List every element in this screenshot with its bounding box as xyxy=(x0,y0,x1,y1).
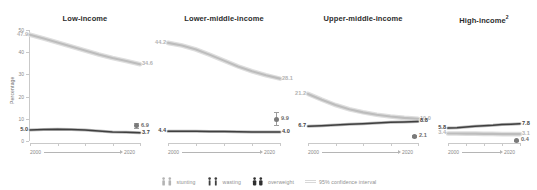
x-axis-tick xyxy=(85,143,86,146)
x-axis-range-rule xyxy=(462,152,500,153)
x-axis-tick xyxy=(448,143,449,146)
two-thin-people-icon xyxy=(207,177,220,186)
overweight-marker xyxy=(514,138,519,143)
value-label-end-wasting: 4.0 xyxy=(282,128,290,134)
value-label-start-wasting: 6.7 xyxy=(298,122,306,128)
overweight-marker xyxy=(274,117,279,122)
x-axis-range-rule xyxy=(322,152,398,153)
x-axis-tick xyxy=(336,143,337,146)
x-axis-tick xyxy=(224,143,225,146)
x-axis-start-label: 2000 xyxy=(30,149,41,155)
x-axis-tick xyxy=(466,143,467,146)
x-axis-arrow-icon xyxy=(260,150,263,154)
x-axis-end-label: 2020 xyxy=(504,149,515,155)
x-axis-start-label: 2000 xyxy=(448,149,459,155)
y-axis-tick xyxy=(26,52,29,53)
ci-band-midline xyxy=(305,181,316,182)
legend-item-95-confidence-interval[interactable]: 95% confidence interval xyxy=(305,178,376,185)
y-axis-tick xyxy=(26,119,29,120)
chart-panel-upper-middle-income: Upper-middle-income21.210.06.78.82.12000… xyxy=(308,0,418,162)
x-axis-tick xyxy=(391,143,392,146)
x-axis-tick xyxy=(58,143,59,146)
value-label-end-wasting: 7.8 xyxy=(522,120,530,126)
x-axis-tick xyxy=(252,143,253,146)
value-label-end-wasting: 3.7 xyxy=(142,129,150,135)
series-canvas xyxy=(308,0,418,162)
value-label-overweight: 2.1 xyxy=(419,132,427,138)
y-axis-tick xyxy=(26,141,29,142)
x-axis-tick xyxy=(30,143,31,146)
x-axis-arrow-icon xyxy=(120,150,123,154)
x-axis-tick xyxy=(196,143,197,146)
x-axis-tick xyxy=(140,143,141,146)
x-axis-tick xyxy=(418,143,419,146)
value-label-overweight: 0.4 xyxy=(521,136,529,142)
series-canvas xyxy=(168,0,280,162)
x-axis-tick xyxy=(520,143,521,146)
two-short-people-icon xyxy=(161,177,174,186)
series-line-wasting xyxy=(308,121,418,126)
value-label-overweight: 6.9 xyxy=(141,122,149,128)
legend-label: wasting xyxy=(223,179,241,185)
x-axis-tick xyxy=(502,143,503,146)
value-label-start-stunting: 3.4 xyxy=(438,129,446,135)
chart-panel-high-income: High-income25.87.83.43.10.420002020 xyxy=(448,0,520,162)
y-axis-tick-label: 20 xyxy=(8,94,24,100)
value-label-start-stunting: 47.9 xyxy=(17,31,28,37)
x-axis-start-label: 2000 xyxy=(308,149,319,155)
chart-panel-low-income: Low-income47.934.65.03.76.920002020 xyxy=(30,0,140,162)
x-axis-end-label: 2020 xyxy=(124,149,135,155)
ci-band-icon xyxy=(305,178,316,185)
x-axis-end-label: 2020 xyxy=(402,149,413,155)
x-axis-arrow-icon xyxy=(500,150,503,154)
two-wide-people-icon xyxy=(252,177,265,186)
value-label-start-wasting: 5.0 xyxy=(20,126,28,132)
y-axis-tick-label: 10 xyxy=(8,116,24,122)
x-axis-start-label: 2000 xyxy=(168,149,179,155)
x-axis-tick xyxy=(363,143,364,146)
series-canvas xyxy=(448,0,520,162)
chart-panel-lower-middle-income: Lower-middle-income44.228.14.44.09.92000… xyxy=(168,0,280,162)
y-axis-tick-label: 30 xyxy=(8,71,24,77)
value-label-overweight: 9.9 xyxy=(281,115,289,121)
series-line-stunting xyxy=(308,94,418,119)
legend-item-wasting[interactable]: wasting xyxy=(207,177,241,186)
overweight-marker xyxy=(412,134,417,139)
x-axis-tick xyxy=(168,143,169,146)
y-axis-label: Percentage xyxy=(9,76,15,104)
series-line-stunting xyxy=(30,35,140,65)
x-axis-tick xyxy=(280,143,281,146)
y-axis-tick xyxy=(26,74,29,75)
chart-figure: Percentage 01020304050 Low-income47.934.… xyxy=(0,0,537,190)
x-axis-range-rule xyxy=(44,152,120,153)
overweight-ci-cap-upper xyxy=(274,112,279,113)
value-label-end-wasting: 8.8 xyxy=(420,117,428,123)
value-label-start-wasting: 4.4 xyxy=(158,127,166,133)
legend-item-stunting[interactable]: stunting xyxy=(161,177,196,186)
value-label-end-stunting: 28.1 xyxy=(282,75,293,81)
x-axis-end-label: 2020 xyxy=(264,149,275,155)
chart-legend: stuntingwastingoverweight95% confidence … xyxy=(0,177,537,186)
value-label-start-stunting: 44.2 xyxy=(155,39,166,45)
legend-label: stunting xyxy=(177,179,196,185)
x-axis-tick xyxy=(484,143,485,146)
series-canvas xyxy=(30,0,140,162)
confidence-band-stunting xyxy=(308,94,418,119)
value-label-end-stunting: 34.6 xyxy=(142,60,153,66)
series-line-stunting xyxy=(448,133,520,134)
x-axis-tick xyxy=(113,143,114,146)
legend-label: overweight xyxy=(268,179,294,185)
overweight-ci-cap-lower xyxy=(274,125,279,126)
y-axis-tick-label: 40 xyxy=(8,49,24,55)
legend-label: 95% confidence interval xyxy=(319,179,376,185)
x-axis-tick xyxy=(308,143,309,146)
x-axis-range-rule xyxy=(182,152,260,153)
y-axis-tick xyxy=(26,97,29,98)
x-axis-arrow-icon xyxy=(398,150,401,154)
y-axis-tick-label: 0 xyxy=(8,138,24,144)
value-label-start-stunting: 21.2 xyxy=(295,90,306,96)
legend-item-overweight[interactable]: overweight xyxy=(252,177,294,186)
